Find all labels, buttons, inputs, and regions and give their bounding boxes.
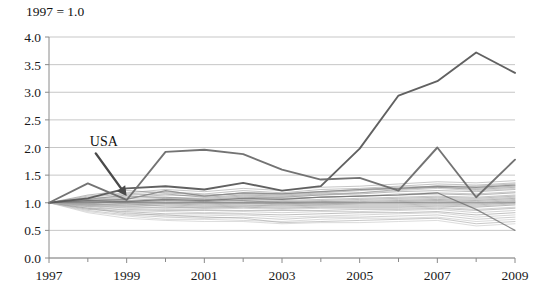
- y-tick-label: 1.5: [24, 168, 41, 183]
- x-tick-label: 2009: [502, 268, 529, 283]
- x-tick-label: 1999: [113, 268, 140, 283]
- y-tick-label: 3.0: [24, 85, 41, 100]
- x-tick-label: 2001: [191, 268, 218, 283]
- series-highlight-group: [49, 52, 515, 202]
- x-tick-group: 1997199920012003200520072009: [36, 258, 529, 283]
- y-tick-label: 1.0: [24, 196, 41, 211]
- y-tick-label: 3.5: [24, 58, 41, 73]
- y-tick-label: 2.0: [24, 141, 41, 156]
- series-background-group: [49, 181, 515, 231]
- series-line-highlight-outlier: [49, 52, 515, 202]
- x-tick-label: 1997: [36, 268, 63, 283]
- y-tick-group: 0.00.51.01.52.02.53.03.54.0: [24, 30, 49, 266]
- y-tick-label: 0.5: [24, 223, 41, 238]
- annotation-label-usa: USA: [90, 134, 119, 149]
- y-tick-label: 4.0: [24, 30, 41, 45]
- y-tick-label: 0.0: [24, 251, 41, 266]
- gridlines-group: [49, 37, 515, 258]
- line-chart: 0.00.51.01.52.02.53.03.54.0 199719992001…: [0, 0, 535, 297]
- annotation-arrow-shaft: [96, 153, 122, 189]
- normalization-note: 1997 = 1.0: [26, 4, 84, 19]
- x-tick-label: 2007: [424, 268, 451, 283]
- chart-figure: 0.00.51.01.52.02.53.03.54.0 199719992001…: [0, 0, 535, 297]
- y-tick-label: 2.5: [24, 113, 41, 128]
- x-tick-label: 2003: [269, 268, 296, 283]
- x-tick-label: 2005: [346, 268, 373, 283]
